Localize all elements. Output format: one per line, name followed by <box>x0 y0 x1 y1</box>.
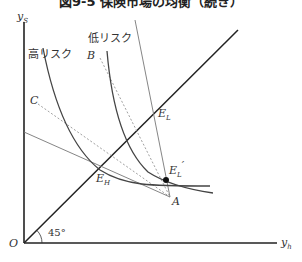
label-EL: EL <box>157 107 171 122</box>
high-risk-indifference-curve <box>43 48 210 186</box>
label-A: A <box>171 195 180 208</box>
low-risk-indifference-curve <box>107 51 213 193</box>
angle-arc-icon <box>37 230 42 243</box>
origin-label: O <box>9 237 18 250</box>
diagram-canvas: yS yh O 45° 高リスク 低リスク B C A EH EL EL′ <box>0 0 302 262</box>
label-C: C <box>30 94 39 107</box>
label-B: B <box>86 49 95 62</box>
high-risk-label: 高リスク <box>28 47 72 61</box>
x-axis-label: yh <box>280 236 292 251</box>
point-EL-prime <box>163 177 169 183</box>
high-risk-odds-line <box>24 132 170 197</box>
low-risk-label: 低リスク <box>88 32 132 45</box>
certainty-line-45 <box>24 30 238 243</box>
angle-label: 45° <box>48 227 66 238</box>
y-axis-label: yS <box>16 10 28 25</box>
label-EL-prime: EL′ <box>168 159 185 179</box>
